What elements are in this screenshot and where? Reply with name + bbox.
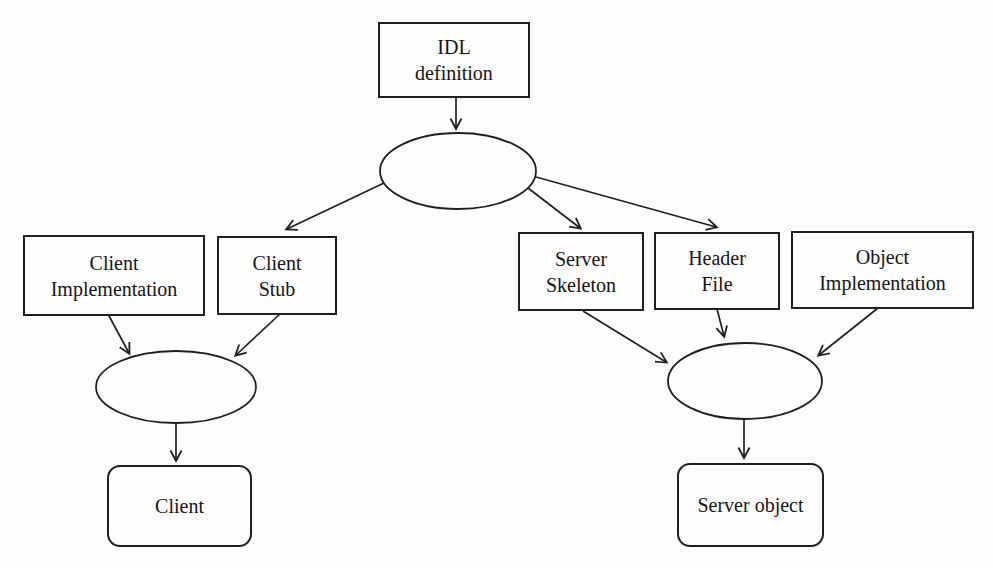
node-client-implementation-label-line-2: Implementation	[51, 276, 178, 302]
diagram-canvas: IDL definition Client Implementation Cli…	[0, 0, 993, 568]
node-server-object-label: Server object	[697, 492, 803, 518]
ellipse-top	[380, 133, 536, 209]
node-header-file: Header File	[654, 232, 780, 310]
node-server-skeleton-label-line-1: Server	[555, 246, 607, 272]
node-client-label: Client	[155, 493, 204, 519]
node-object-implementation-label-line-2: Implementation	[819, 270, 946, 296]
node-object-implementation: Object Implementation	[791, 231, 974, 309]
node-server-object: Server object	[677, 463, 824, 547]
node-client: Client	[107, 465, 252, 547]
edge-object-implementation-to-ellipse-right	[819, 308, 878, 355]
edge-client-stub-to-ellipse-left	[236, 313, 281, 355]
node-client-stub: Client Stub	[217, 236, 337, 315]
edge-header-file-to-ellipse-right	[717, 309, 724, 336]
edge-ellipse-top-to-client-stub	[287, 183, 384, 229]
node-server-skeleton-label-line-2: Skeleton	[546, 272, 616, 298]
node-header-file-label-line-1: Header	[688, 245, 746, 271]
node-client-stub-label-line-1: Client	[253, 250, 302, 276]
node-client-stub-label-line-2: Stub	[259, 276, 296, 302]
edge-ellipse-top-to-header-file	[536, 177, 716, 227]
edge-server-skeleton-to-ellipse-right	[583, 311, 666, 362]
edge-ellipse-top-to-server-skeleton	[528, 188, 580, 228]
node-object-implementation-label-line-1: Object	[856, 244, 909, 270]
node-client-implementation-label-line-1: Client	[90, 250, 139, 276]
node-header-file-label-line-2: File	[701, 271, 732, 297]
edge-client-implementation-to-ellipse-left	[108, 314, 129, 353]
ellipse-right	[668, 343, 822, 419]
ellipse-left	[96, 351, 256, 423]
node-client-implementation: Client Implementation	[23, 235, 205, 316]
node-idl-definition: IDL definition	[378, 22, 530, 98]
node-server-skeleton: Server Skeleton	[518, 232, 644, 311]
node-idl-definition-label-line-2: definition	[415, 60, 493, 86]
node-idl-definition-label-line-1: IDL	[437, 34, 470, 60]
